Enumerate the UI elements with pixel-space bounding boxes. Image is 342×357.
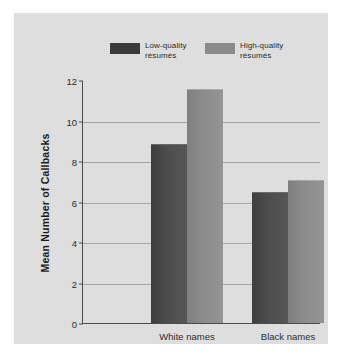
chart-legend: Low-quality résumés High-quality résumés — [110, 41, 325, 71]
bar — [151, 144, 187, 323]
y-axis-tick-mark — [79, 324, 83, 325]
y-axis-tick-label: 0 — [72, 319, 77, 330]
y-axis-tick-label: 6 — [72, 197, 77, 208]
plot-frame: 024681012 White namesBlack names — [82, 81, 320, 324]
x-axis-tick-label: Black names — [261, 331, 315, 342]
legend-label-low-quality: Low-quality résumés — [145, 41, 187, 60]
y-axis-title-text: Mean Number of Callbacks — [38, 133, 50, 272]
legend-entry-high-quality: High-quality résumés — [205, 41, 283, 60]
y-axis-title: Mean Number of Callbacks — [36, 81, 52, 324]
bar — [288, 180, 324, 323]
plot-area: 024681012 White namesBlack names — [83, 81, 320, 323]
y-axis-tick-label: 4 — [72, 238, 77, 249]
y-axis-tick-mark — [79, 81, 83, 82]
figure: Low-quality résumés High-quality résumés… — [0, 0, 342, 357]
legend-entry-low-quality: Low-quality résumés — [110, 41, 187, 60]
y-axis-tick-mark — [79, 121, 83, 122]
bar — [252, 192, 288, 323]
legend-swatch-low-quality — [110, 43, 140, 54]
y-axis-tick-label: 12 — [66, 76, 77, 87]
y-axis-tick-mark — [79, 202, 83, 203]
y-axis-tick-mark — [79, 162, 83, 163]
legend-swatch-high-quality — [205, 43, 235, 54]
y-axis-tick-label: 8 — [72, 157, 77, 168]
y-axis-tick-mark — [79, 283, 83, 284]
y-axis-tick-label: 2 — [72, 278, 77, 289]
bar — [187, 89, 223, 323]
y-axis-tick-label: 10 — [66, 116, 77, 127]
chart-panel: Low-quality résumés High-quality résumés… — [14, 13, 328, 344]
legend-label-high-quality: High-quality résumés — [240, 41, 283, 60]
y-axis-tick-mark — [79, 243, 83, 244]
x-axis-tick-label: White names — [159, 331, 214, 342]
